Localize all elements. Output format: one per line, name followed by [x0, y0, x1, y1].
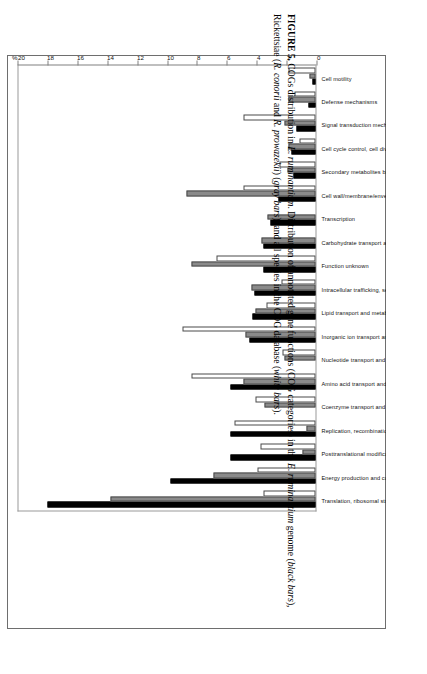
caption-italic-4: R. prowazekii [272, 119, 283, 171]
axis-tick-label: 10 [167, 55, 174, 61]
caption-title-species: E. ruminantium [286, 146, 297, 206]
caption-italic-5: gray bars [272, 180, 283, 217]
category-label: Lipid transport and metabolism [321, 309, 386, 315]
category-label: Cell cycle control, cell division, chrom… [321, 145, 386, 151]
bar-rick [306, 425, 315, 431]
axis-tick-label: 16 [77, 55, 84, 61]
category-label: Secondary metabolites biosynthesis, tran… [321, 168, 386, 174]
category-label: Function unknown [321, 262, 368, 268]
value-axis-title: % [12, 55, 18, 61]
bar-erga [296, 125, 315, 131]
chart-rotation-wrapper: 02468101214161820% Translation, ribosoma… [7, 55, 386, 629]
axis-tick-label: 20 [17, 55, 24, 61]
figure-caption: FIGURE 5. COGs distribution in E. rumina… [271, 14, 298, 644]
category-label: Translation, ribosomal structure and bio… [321, 497, 386, 503]
axis-tick-label: 18 [47, 55, 54, 61]
category-label: Cell motility [321, 75, 351, 81]
category-label: Transcription [321, 215, 355, 221]
bar-all [299, 138, 315, 144]
bar-rick [213, 472, 315, 478]
caption-body-1: Distribution of annotated gene functions… [286, 209, 297, 463]
caption-body-7: ). [272, 409, 283, 415]
axis-tick-label: 0 [316, 55, 319, 61]
category-label: Carbohydrate transport and metabolism [321, 239, 386, 245]
category-label: Nucleotide transport and metabolism [321, 356, 386, 362]
caption-body-2: genome ( [286, 523, 297, 561]
axis-tick-label: 6 [226, 55, 229, 61]
category-label: Signal transduction mechanisms [321, 121, 386, 127]
category-label: Inorganic ion transport and metabolism [321, 333, 386, 339]
bar-rick [302, 449, 315, 455]
category-label: Replication, recombination and repair [321, 427, 386, 433]
caption-body-4: and [272, 101, 283, 120]
axis-tick-label: 4 [256, 55, 259, 61]
bar-rick [309, 73, 315, 79]
category-label: Energy production and conversion [321, 474, 386, 480]
bar-erga [308, 102, 315, 108]
figure-page: 02468101214161820% Translation, ribosoma… [0, 0, 427, 674]
axis-tick-label: 8 [196, 55, 199, 61]
bar-erga [312, 79, 315, 85]
caption-italic-1: E. ruminantium [286, 463, 297, 523]
caption-title-lead: COGs distribution in [286, 63, 297, 146]
caption-label: FIGURE 5. [286, 14, 297, 61]
caption-italic-6: white bars [272, 369, 283, 409]
axis-tick-label: 14 [107, 55, 114, 61]
chart-stage: 02468101214161820% Translation, ribosoma… [7, 55, 386, 629]
category-label: Cell wall/membrane/envelope biogenesis [321, 192, 386, 198]
category-label: Amino acid transport and metabolism [321, 380, 386, 386]
axis-tick-label: 12 [137, 55, 144, 61]
caption-body-6: ), and all species in the COG database ( [272, 218, 283, 370]
bar-all [216, 255, 315, 261]
category-label: Defense mechanisms [321, 98, 377, 104]
category-label: Intracellular trafficking, secretion, an… [321, 286, 386, 292]
caption-italic-2: black bars [286, 562, 297, 602]
caption-italic-3: R. conorii [272, 62, 283, 100]
category-label: Posttranslational modification, protein … [321, 450, 386, 456]
category-label: Coenzyme transport and metabolism [321, 403, 386, 409]
